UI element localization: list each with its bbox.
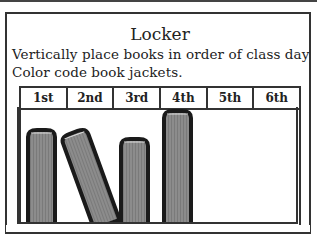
- book-icon[interactable]: [121, 139, 148, 233]
- book-icon[interactable]: [28, 130, 55, 233]
- books-illustration: [0, 0, 317, 240]
- book-icon[interactable]: [61, 128, 120, 229]
- book-icon[interactable]: [164, 111, 191, 233]
